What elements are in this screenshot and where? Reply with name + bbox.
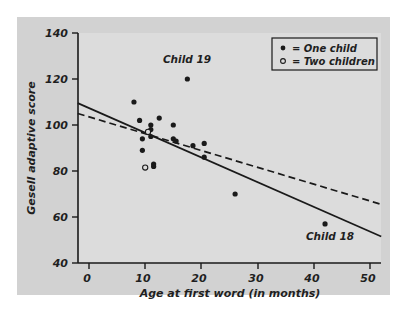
data-point-one-child-18	[322, 221, 327, 226]
data-point-one-child-0	[131, 99, 136, 104]
annotation-child-19: Child 19	[163, 53, 211, 65]
y-ticklabel-0: 40	[52, 257, 69, 270]
x-axis-title: Age at first word (in months)	[139, 287, 321, 300]
chart-plot-area: 40 60 80 100 120 140 Gesell adaptive sco…	[0, 0, 406, 317]
x-ticklabel-1: 10	[135, 272, 151, 285]
legend-filled-dot-icon	[281, 46, 286, 51]
chart-legend: = One child = Two children	[272, 38, 377, 70]
data-point-one-child-17	[233, 191, 238, 196]
data-point-one-child-8	[151, 164, 156, 169]
data-point-one-child-10	[171, 122, 176, 127]
data-point-one-child-4	[148, 122, 153, 127]
x-ticklabel-2: 20	[191, 272, 207, 285]
y-axis-tick-labels: 40 60 80 100 120 140	[45, 27, 68, 270]
data-point-one-child-9	[157, 116, 162, 121]
x-ticklabel-3: 30	[248, 272, 264, 285]
x-ticklabel-4: 40	[303, 272, 320, 285]
y-axis-title: Gesell adaptive score	[25, 81, 38, 215]
data-point-one-child-14	[190, 143, 195, 148]
data-point-one-child-12	[174, 139, 179, 144]
y-axis-ticks	[72, 33, 78, 263]
data-point-one-child-15	[202, 141, 207, 146]
x-ticklabel-0: 0	[83, 272, 91, 285]
y-ticklabel-1: 60	[53, 211, 69, 224]
scatter-chart-svg: 40 60 80 100 120 140 Gesell adaptive sco…	[0, 0, 406, 317]
y-ticklabel-4: 120	[45, 73, 68, 86]
data-point-one-child-2	[140, 136, 145, 141]
y-ticklabel-3: 100	[45, 119, 68, 132]
x-axis-tick-labels: 0 10 20 30 40 50	[83, 272, 376, 285]
annotation-child-18: Child 18	[306, 230, 354, 242]
legend-open-circle-icon	[281, 59, 286, 64]
legend-label-one-child: = One child	[292, 43, 358, 54]
data-point-two-children-1	[143, 165, 148, 170]
x-axis-ticks	[89, 263, 370, 269]
x-ticklabel-5: 50	[360, 272, 376, 285]
figure-container: 40 60 80 100 120 140 Gesell adaptive sco…	[0, 0, 406, 317]
data-point-two-children-0	[145, 129, 150, 134]
data-point-one-child-13	[185, 76, 190, 81]
data-point-one-child-1	[137, 118, 142, 123]
y-ticklabel-2: 80	[53, 165, 69, 178]
data-point-one-child-3	[140, 148, 145, 153]
data-point-one-child-16	[202, 155, 207, 160]
legend-label-two-children: = Two children	[292, 56, 375, 67]
y-ticklabel-5: 140	[45, 27, 68, 40]
